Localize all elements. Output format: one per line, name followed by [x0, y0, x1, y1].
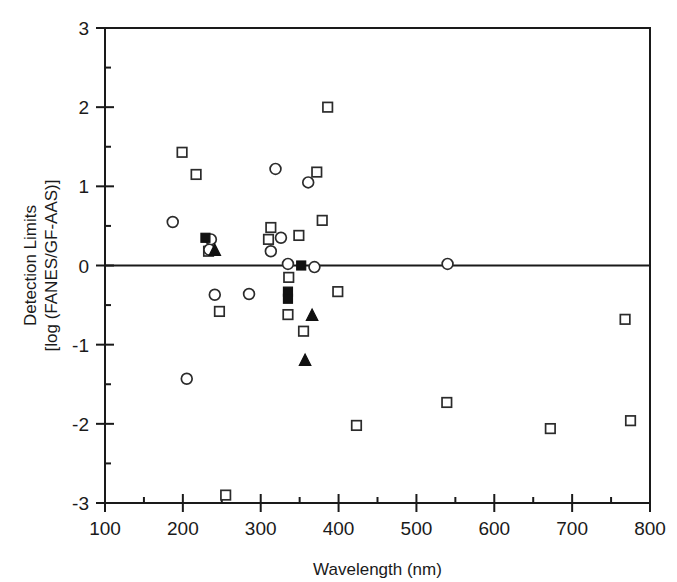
- data-point-open-square: [294, 231, 304, 241]
- data-point-open-square: [284, 273, 294, 283]
- data-point-open-square: [333, 287, 343, 297]
- data-point-open-circle: [303, 177, 314, 188]
- x-tick-label: 400: [323, 518, 355, 539]
- x-tick-label: 500: [401, 518, 433, 539]
- data-point-open-circle: [276, 232, 287, 243]
- y-axis-title-line: Detection Limits: [21, 205, 40, 326]
- data-point-open-circle: [244, 289, 255, 300]
- data-point-filled-square: [297, 261, 306, 270]
- y-tick-label: 0: [78, 256, 89, 277]
- y-tick-label: 3: [78, 18, 89, 39]
- data-point-open-circle: [283, 259, 294, 270]
- data-point-open-square: [323, 102, 333, 112]
- data-point-filled-square: [201, 233, 210, 242]
- data-point-open-square: [266, 223, 276, 233]
- data-point-filled-square: [283, 294, 292, 303]
- data-point-open-circle: [209, 289, 220, 300]
- scatter-figure: 100200300400500600700800-3-2-10123Wavele…: [0, 0, 677, 582]
- x-tick-label: 800: [634, 518, 666, 539]
- data-point-open-square: [191, 170, 201, 180]
- x-tick-label: 100: [89, 518, 121, 539]
- data-point-filled-triangle: [306, 309, 318, 320]
- data-point-open-square: [620, 315, 630, 325]
- data-point-open-square: [312, 167, 322, 177]
- data-point-open-circle: [181, 373, 192, 384]
- x-tick-label: 600: [478, 518, 510, 539]
- x-tick-label: 700: [556, 518, 588, 539]
- y-tick-label: -3: [72, 493, 89, 514]
- y-tick-label: 2: [78, 97, 89, 118]
- data-point-open-square: [626, 416, 636, 426]
- data-point-filled-triangle: [299, 354, 311, 365]
- data-point-open-square: [221, 490, 231, 500]
- x-tick-label: 200: [167, 518, 199, 539]
- data-point-open-square: [442, 398, 452, 408]
- y-axis-title-line: [log (FANES/GF-AAS)]: [42, 180, 61, 352]
- plot-canvas: 100200300400500600700800-3-2-10123Wavele…: [0, 0, 677, 582]
- data-point-open-circle: [270, 164, 281, 175]
- y-axis-title-group: Detection Limits[log (FANES/GF-AAS)]: [21, 180, 61, 352]
- y-tick-label: -1: [72, 335, 89, 356]
- data-point-open-square: [317, 216, 327, 226]
- x-tick-label: 300: [245, 518, 277, 539]
- y-tick-label: 1: [78, 176, 89, 197]
- data-point-open-square: [177, 148, 187, 158]
- x-axis-title: Wavelength (nm): [313, 560, 442, 579]
- data-point-open-square: [283, 310, 293, 320]
- y-tick-label: -2: [72, 414, 89, 435]
- data-point-open-circle: [265, 246, 276, 257]
- data-point-open-square: [299, 326, 309, 336]
- data-point-open-circle: [309, 262, 320, 273]
- data-point-open-square: [352, 421, 362, 431]
- data-point-open-circle: [167, 217, 178, 228]
- data-point-open-square: [546, 424, 556, 434]
- data-point-open-square: [215, 307, 225, 317]
- data-point-open-square: [264, 235, 274, 245]
- data-point-open-circle: [442, 259, 453, 270]
